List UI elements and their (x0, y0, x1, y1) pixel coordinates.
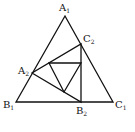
label-b1: B1 (3, 99, 14, 111)
label-b2: B2 (76, 105, 87, 117)
label-a2: A2 (17, 65, 29, 77)
inner-triangle (49, 63, 81, 92)
label-c1: C1 (115, 99, 126, 111)
label-c2: C2 (83, 33, 95, 45)
triangle-diagram: A1 B1 C1 A2 B2 C2 (0, 0, 135, 132)
label-a1: A1 (58, 2, 70, 14)
outer-triangle-a1b1c1 (16, 16, 113, 102)
middle-triangle-a2b2c2 (32, 44, 81, 102)
